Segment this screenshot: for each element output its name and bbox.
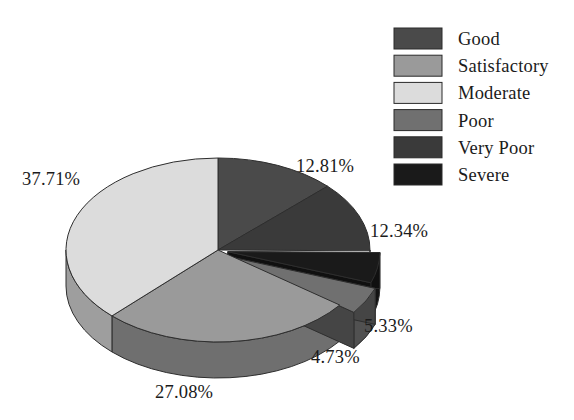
- legend-swatch-severe[interactable]: [394, 164, 442, 185]
- data-label-good: 12.81%: [296, 156, 354, 176]
- data-label-poor: 4.73%: [311, 347, 360, 367]
- pie-chart-svg: 37.71% 12.81% 12.34% 5.33% 4.73% 27.08% …: [0, 0, 574, 420]
- legend-label-very-poor: Very Poor: [458, 138, 534, 158]
- legend-label-satisfactory: Satisfactory: [458, 56, 549, 76]
- data-label-satisfactory: 27.08%: [155, 382, 213, 402]
- legend-swatch-very-poor[interactable]: [394, 137, 442, 158]
- legend-swatch-moderate[interactable]: [394, 82, 442, 103]
- legend-swatch-poor[interactable]: [394, 110, 442, 131]
- pie-chart-figure: 37.71% 12.81% 12.34% 5.33% 4.73% 27.08% …: [0, 0, 574, 420]
- legend-label-good: Good: [458, 29, 500, 49]
- legend-swatch-good[interactable]: [394, 28, 442, 49]
- pie-3d-group: [66, 158, 380, 378]
- data-label-moderate: 37.71%: [22, 169, 80, 189]
- legend-label-poor: Poor: [458, 111, 494, 131]
- legend-label-moderate: Moderate: [458, 83, 530, 103]
- data-label-severe: 5.33%: [364, 316, 413, 336]
- data-label-very-poor: 12.34%: [370, 221, 428, 241]
- legend: GoodSatisfactoryModeratePoorVery PoorSev…: [394, 28, 549, 185]
- legend-label-severe: Severe: [458, 165, 510, 185]
- legend-swatch-satisfactory[interactable]: [394, 55, 442, 76]
